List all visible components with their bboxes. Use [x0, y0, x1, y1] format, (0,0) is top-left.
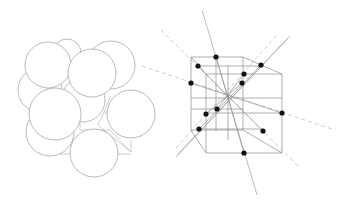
atom-site-dot [239, 80, 244, 85]
atom-site-dot [195, 63, 200, 68]
sphere [29, 88, 81, 140]
sphere [70, 129, 118, 177]
sphere [107, 90, 155, 138]
atom-site-dot [188, 80, 193, 85]
atom-site-dot [241, 150, 246, 155]
atom-site-dot [258, 62, 263, 67]
atom-site-dot [214, 106, 219, 111]
sphere [68, 49, 116, 97]
atom-site-dot [203, 111, 208, 116]
close-packed-sphere-model [18, 39, 155, 177]
symmetry-axes-solid [176, 10, 290, 195]
crystal-structure-figure [0, 0, 350, 203]
sphere [25, 42, 71, 88]
atom-site-dot [260, 128, 265, 133]
atom-site-dot [241, 71, 246, 76]
lattice-cube-diagram [142, 10, 335, 195]
atom-site-dot [279, 110, 284, 115]
atom-site-dot [196, 126, 201, 131]
atom-site-dot [213, 54, 218, 59]
